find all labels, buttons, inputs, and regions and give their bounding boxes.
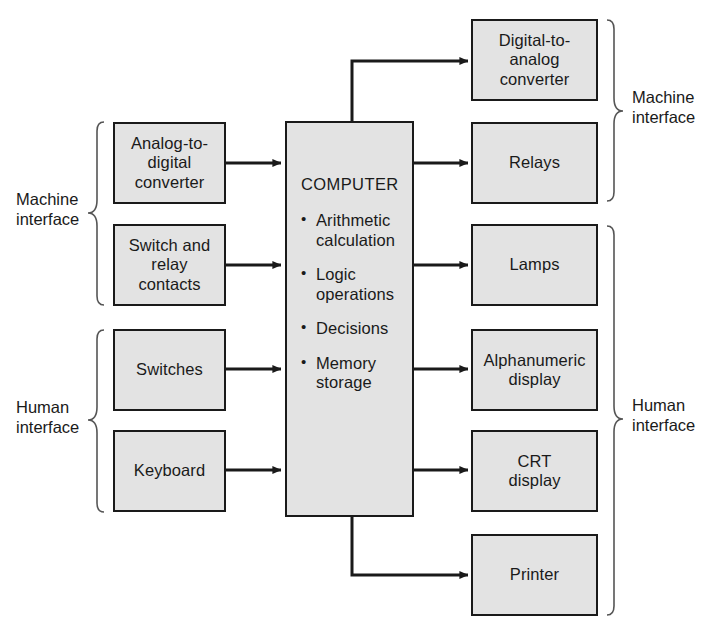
group-label-right-machine: Machine interface <box>632 88 722 128</box>
arrow-computer-to-dac <box>352 61 468 121</box>
output-box-digital-to-analog-converter[interactable]: Digital-to- analog converter <box>471 19 598 101</box>
diagram-canvas: Machine interface Human interface Machin… <box>0 0 723 636</box>
input-box-keyboard[interactable]: Keyboard <box>113 430 226 512</box>
output-box-alphanumeric-display[interactable]: Alphanumeric display <box>471 329 598 411</box>
computer-content: COMPUTER Arithmetic calculation Logic op… <box>287 123 412 408</box>
computer-function-list: Arithmetic calculation Logic operations … <box>301 211 412 392</box>
computer-function-item: Logic operations <box>301 265 412 304</box>
arrow-computer-to-printer <box>352 517 468 575</box>
group-label-left-machine: Machine interface <box>16 190 98 230</box>
brace-right-machine <box>607 20 623 201</box>
group-label-left-human: Human interface <box>16 398 98 438</box>
input-box-switch-and-relay-contacts[interactable]: Switch and relay contacts <box>113 224 226 306</box>
output-box-printer[interactable]: Printer <box>471 534 598 616</box>
group-label-right-human: Human interface <box>632 396 722 436</box>
output-box-crt-display[interactable]: CRT display <box>471 430 598 512</box>
central-computer-box[interactable]: COMPUTER Arithmetic calculation Logic op… <box>285 121 414 517</box>
computer-function-item: Arithmetic calculation <box>301 211 412 250</box>
brace-right-human <box>607 226 623 615</box>
computer-function-item: Memory storage <box>301 354 412 393</box>
computer-function-item: Decisions <box>301 319 412 338</box>
computer-title: COMPUTER <box>301 175 412 194</box>
output-box-relays[interactable]: Relays <box>471 122 598 204</box>
output-box-lamps[interactable]: Lamps <box>471 224 598 306</box>
input-box-switches[interactable]: Switches <box>113 329 226 411</box>
input-box-analog-to-digital-converter[interactable]: Analog-to- digital converter <box>113 122 226 204</box>
